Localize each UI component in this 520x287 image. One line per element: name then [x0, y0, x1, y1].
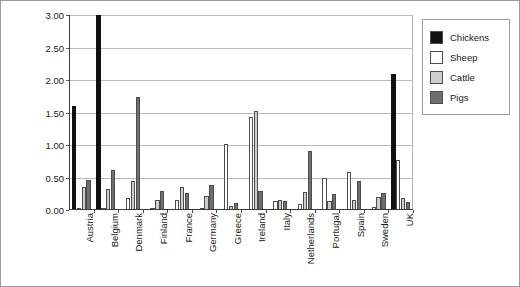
y-axis-tick-label: 0.50 [46, 172, 65, 183]
y-axis-tick-label: 1.00 [46, 140, 65, 151]
legend-label-pigs: Pigs [450, 92, 468, 103]
bar-pigs-ireland [258, 191, 262, 210]
x-axis-label: Germany [208, 213, 218, 287]
bars-layer [69, 15, 413, 210]
x-axis-label: Spain [356, 213, 366, 287]
bar-cattle-belgium [106, 189, 110, 210]
y-axis-line [69, 15, 70, 210]
legend-swatch-cattle [430, 71, 443, 84]
legend-item-sheep: Sheep [430, 47, 503, 67]
x-axis-label: Netherlands [306, 213, 316, 287]
chart-legend: Chickens Sheep Cattle Pigs [422, 19, 510, 115]
bar-group [143, 15, 168, 210]
x-axis-label: Finland [159, 213, 169, 287]
y-axis-tick-label: 2.00 [46, 75, 65, 86]
bar-pigs-austria [86, 180, 90, 210]
bar-chickens-austria [72, 106, 76, 210]
x-axis-line [69, 209, 413, 210]
x-axis-label: Italy [282, 213, 292, 287]
bar-cattle-germany [204, 196, 208, 210]
bar-group [339, 15, 364, 210]
bar-group [94, 15, 119, 210]
bar-group [118, 15, 143, 210]
x-axis-label: Austria [85, 213, 95, 287]
bar-pigs-spain [357, 181, 361, 210]
x-axis-label: France [184, 213, 194, 287]
bar-chickens-uk [391, 74, 395, 210]
bar-pigs-belgium [111, 170, 115, 210]
bar-group [192, 15, 217, 210]
legend-item-pigs: Pigs [430, 87, 503, 107]
x-axis-label: Ireland [257, 213, 267, 287]
x-axis-label: Denmark [134, 213, 144, 287]
x-axis-label: Belgium [110, 213, 120, 287]
legend-label-sheep: Sheep [450, 52, 477, 63]
chart-figure: Number of animals per person 0.000.501.0… [0, 0, 520, 287]
y-axis-tick-label: 1.50 [46, 107, 65, 118]
bar-cattle-denmark [131, 181, 135, 210]
legend-label-cattle: Cattle [450, 72, 475, 83]
y-axis-tick-mark [66, 210, 69, 211]
bar-group [266, 15, 291, 210]
bar-sheep-greece [224, 144, 228, 210]
plot-area: 0.000.501.001.502.002.503.00 [69, 15, 413, 210]
bar-group [69, 15, 94, 210]
x-axis-label: Greece [233, 213, 243, 287]
legend-swatch-pigs [430, 91, 443, 104]
y-axis-tick-label: 2.50 [46, 42, 65, 53]
bar-cattle-netherlands [303, 192, 307, 210]
y-axis-tick-label: 3.00 [46, 10, 65, 21]
bar-pigs-sweden [381, 193, 385, 210]
bar-pigs-france [185, 193, 189, 210]
bar-pigs-netherlands [308, 151, 312, 210]
bar-sheep-portugal [322, 178, 326, 211]
x-axis-label: Sweden [380, 213, 390, 287]
bar-cattle-ireland [254, 111, 258, 210]
bar-sheep-uk [396, 160, 400, 210]
bar-chickens-belgium [96, 15, 100, 210]
bar-group [388, 15, 413, 210]
bar-sheep-ireland [249, 117, 253, 210]
legend-item-cattle: Cattle [430, 67, 503, 87]
bar-group [167, 15, 192, 210]
y-axis-tick-label: 0.00 [46, 205, 65, 216]
bar-pigs-denmark [136, 97, 140, 210]
x-axis-label: Portugal [331, 213, 341, 287]
bar-group [290, 15, 315, 210]
bar-cattle-france [180, 187, 184, 210]
bar-group [315, 15, 340, 210]
bar-group [241, 15, 266, 210]
bar-cattle-austria [82, 187, 86, 210]
bar-pigs-germany [209, 185, 213, 210]
legend-item-chickens: Chickens [430, 27, 503, 47]
x-axis-labels: AustriaBelgiumDenmarkFinlandFranceGerman… [69, 213, 413, 287]
bar-pigs-portugal [332, 194, 336, 210]
legend-label-chickens: Chickens [450, 32, 489, 43]
bar-group [216, 15, 241, 210]
x-axis-label: UK [405, 213, 415, 287]
bar-pigs-finland [160, 191, 164, 210]
bar-group [364, 15, 389, 210]
legend-swatch-chickens [430, 31, 443, 44]
legend-swatch-sheep [430, 51, 443, 64]
bar-sheep-spain [347, 172, 351, 210]
